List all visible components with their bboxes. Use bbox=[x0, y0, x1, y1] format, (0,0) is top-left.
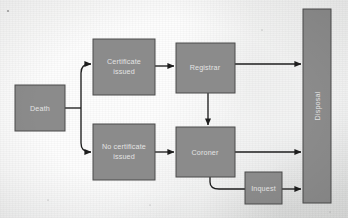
node-registrar-label: Registrar bbox=[190, 63, 221, 72]
node-no-certificate-issued-label-line1: No certificate bbox=[102, 142, 146, 151]
node-certificate-issued-label-line1: Certificate bbox=[107, 57, 141, 66]
node-no-certificate-issued-label-line2: issued bbox=[113, 152, 135, 161]
node-death[interactable]: Death bbox=[15, 85, 65, 131]
node-disposal-label: Disposal bbox=[313, 91, 322, 120]
flowchart-svg: Death Certificate issued No certificate … bbox=[0, 0, 348, 218]
edge-coroner-to-inquest bbox=[210, 177, 245, 189]
node-inquest-label: Inquest bbox=[251, 184, 276, 193]
edge-death-to-certificate-issued bbox=[81, 64, 91, 108]
edge-death-to-no-certificate-issued bbox=[81, 108, 91, 152]
node-registrar[interactable]: Registrar bbox=[176, 43, 235, 93]
node-disposal[interactable]: Disposal bbox=[303, 9, 331, 203]
node-coroner[interactable]: Coroner bbox=[176, 127, 235, 177]
node-certificate-issued-label-line2: issued bbox=[113, 67, 135, 76]
flowchart-canvas: Death Certificate issued No certificate … bbox=[0, 0, 348, 218]
node-inquest[interactable]: Inquest bbox=[245, 172, 282, 204]
node-death-label: Death bbox=[30, 104, 50, 113]
node-coroner-label: Coroner bbox=[191, 148, 218, 157]
node-no-certificate-issued[interactable]: No certificate issued bbox=[93, 124, 155, 180]
node-certificate-issued[interactable]: Certificate issued bbox=[93, 39, 155, 95]
